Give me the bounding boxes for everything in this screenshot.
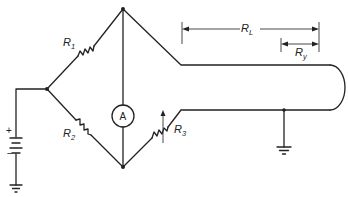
svg-text:R: R <box>241 22 249 34</box>
svg-text:R: R <box>295 46 303 58</box>
variable-arrowhead-icon <box>161 110 166 116</box>
battery-plus-label: + <box>6 125 12 136</box>
cable-loop-end <box>330 65 345 110</box>
battery-minus-label: − <box>7 148 13 159</box>
ammeter: A <box>112 9 134 167</box>
r1-subscript: 1 <box>71 42 75 51</box>
rl-label: R <box>241 22 249 34</box>
r2-label: R <box>63 127 71 139</box>
svg-text:R: R <box>63 36 71 48</box>
r1-label: R <box>63 36 71 48</box>
r3-label: R <box>174 123 182 135</box>
dimension-ry: R y <box>281 38 319 61</box>
resistor-r1: R 1 <box>47 9 123 89</box>
r2-subscript: 2 <box>70 133 76 142</box>
ammeter-label: A <box>120 111 127 122</box>
bridge-circuit-diagram: + − R 1 R 2 A R <box>0 0 348 197</box>
ry-label: R <box>295 46 303 58</box>
battery-branch: + − <box>6 89 47 185</box>
svg-text:R: R <box>174 123 182 135</box>
svg-text:R: R <box>63 127 71 139</box>
ground-left-icon <box>10 185 22 192</box>
variable-resistor-r3: R 3 <box>123 110 330 167</box>
ground-right-icon <box>277 108 291 154</box>
rl-subscript: L <box>249 28 253 37</box>
r3-subscript: 3 <box>182 129 187 138</box>
ry-subscript: y <box>302 52 308 61</box>
left-node <box>45 87 49 91</box>
resistor-r2: R 2 <box>47 89 123 167</box>
